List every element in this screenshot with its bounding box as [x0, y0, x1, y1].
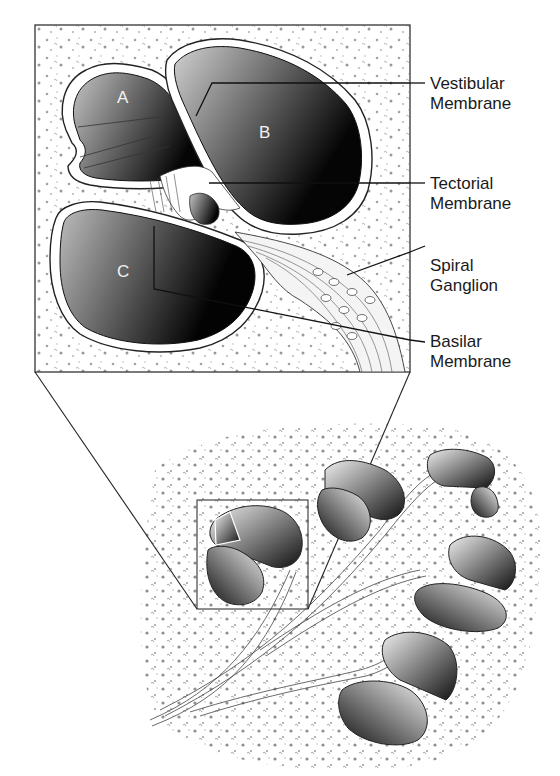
leader-tails	[410, 83, 425, 342]
label-tectorial-membrane: Tectorial Membrane	[430, 174, 511, 214]
label-spiral-ganglion: Spiral Ganglion	[430, 256, 498, 296]
label-line-2: Ganglion	[430, 276, 498, 296]
label-line-2: Membrane	[430, 94, 511, 114]
cochlea-overview	[141, 424, 541, 770]
cochlea-diagram: A B C	[0, 0, 560, 776]
label-line-1: Vestibular	[430, 74, 511, 94]
label-line-1: Spiral	[430, 256, 498, 276]
label-line-1: Basilar	[430, 332, 511, 352]
label-line-2: Membrane	[430, 352, 511, 372]
label-basilar-membrane: Basilar Membrane	[430, 332, 511, 372]
chamber-a-letter: A	[117, 88, 129, 107]
label-line-2: Membrane	[430, 194, 511, 214]
inset-panel: A B C	[35, 25, 410, 372]
label-vestibular-membrane: Vestibular Membrane	[430, 74, 511, 114]
chamber-b-letter: B	[259, 123, 270, 142]
chamber-c-letter: C	[117, 262, 129, 281]
label-line-1: Tectorial	[430, 174, 511, 194]
